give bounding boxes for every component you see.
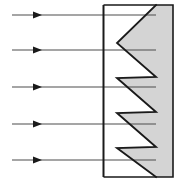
physics-diagram-figure	[0, 0, 181, 190]
sawtooth-surface-diagram	[0, 0, 181, 190]
